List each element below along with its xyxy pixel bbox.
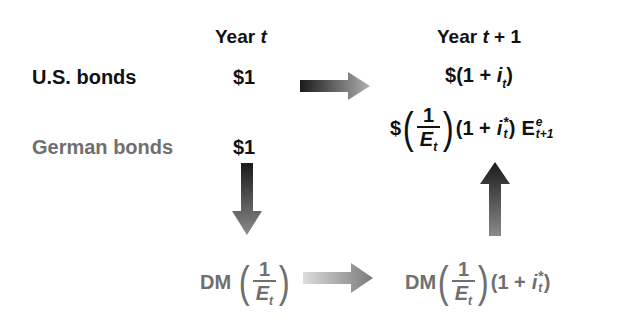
us-bonds-year-t1-value: $(1 + it) xyxy=(445,64,513,87)
convert-back-arrow-icon xyxy=(480,162,510,236)
header-year-t-prefix: Year xyxy=(215,26,260,47)
expected-exchange-rate: E et+1 xyxy=(522,116,554,140)
us-rate-sub: t xyxy=(502,77,506,91)
left-paren: ( xyxy=(403,106,414,150)
us-bonds-label: U.S. bonds xyxy=(32,66,136,89)
convert-to-dm-arrow-icon xyxy=(232,163,262,235)
dollar-sign: $ xyxy=(390,117,401,140)
factor-open: (1 + xyxy=(456,117,491,140)
exchange-rate-sub: t xyxy=(269,294,273,308)
expected-rate-symbol: E xyxy=(522,117,535,140)
factor-close: ) xyxy=(509,117,516,140)
us-bonds-year-t-value: $1 xyxy=(233,66,255,89)
fraction: 1 Et xyxy=(253,258,276,307)
header-year-t: Year t xyxy=(215,26,267,48)
fraction-denominator: Et xyxy=(452,280,475,307)
us-currency: $ xyxy=(445,64,456,86)
german-dollar-return-formula: $ ( 1 Et ) (1 + i*t ) E et+1 xyxy=(390,100,554,156)
fraction-numerator: 1 xyxy=(455,258,472,280)
fraction: 1 Et xyxy=(417,104,440,153)
left-paren: ( xyxy=(239,260,250,304)
exchange-rate-sub: t xyxy=(468,294,472,308)
exchange-rate: E xyxy=(256,282,269,304)
foreign-rate: i xyxy=(532,271,538,294)
german-invest-arrow-icon xyxy=(303,263,373,293)
dm-return-formula: DM ( 1 Et ) (1 + i*t ) xyxy=(405,254,550,310)
header-year-t-var: t xyxy=(260,26,266,47)
fraction-denominator: Et xyxy=(417,126,440,153)
expected-rate-sub: t+1 xyxy=(536,128,554,140)
header-year-t1-suffix: + 1 xyxy=(489,26,521,47)
fraction-denominator: Et xyxy=(253,280,276,307)
german-bonds-year-t-value: $1 xyxy=(233,136,255,159)
us-factor-open: (1 + xyxy=(456,64,497,86)
factor-close: ) xyxy=(544,271,551,294)
exchange-rate: E xyxy=(455,282,468,304)
foreign-rate: i xyxy=(497,117,503,140)
header-year-t1-prefix: Year xyxy=(437,26,482,47)
right-paren: ) xyxy=(478,260,489,304)
header-year-t-plus-1: Year t + 1 xyxy=(437,26,521,48)
fraction-numerator: 1 xyxy=(420,104,437,126)
dm-conversion-formula: DM ( 1 Et ) xyxy=(200,254,292,310)
us-factor-close: ) xyxy=(506,64,513,86)
exchange-rate-sub: t xyxy=(433,140,437,154)
german-bonds-label: German bonds xyxy=(32,136,173,159)
dm-currency: DM xyxy=(200,271,231,294)
us-invest-arrow-icon xyxy=(300,72,370,100)
factor-open: (1 + xyxy=(491,271,526,294)
fraction: 1 Et xyxy=(452,258,475,307)
left-paren: ( xyxy=(438,260,449,304)
fraction-numerator: 1 xyxy=(256,258,273,280)
right-paren: ) xyxy=(443,106,454,150)
dm-currency: DM xyxy=(405,271,436,294)
right-paren: ) xyxy=(279,260,290,304)
exchange-rate: E xyxy=(420,128,433,150)
